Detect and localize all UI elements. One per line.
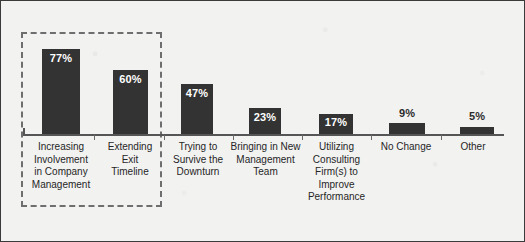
- bar-bringing-new-management[interactable]: 23%: [249, 108, 281, 134]
- bar-value-label: 17%: [319, 116, 353, 128]
- bar-extending-exit-timeline[interactable]: 60%: [113, 70, 148, 134]
- bar-other[interactable]: [460, 127, 494, 134]
- plot-area: 77% Increasing Involvement in Company Ma…: [1, 1, 524, 241]
- category-label-line: Management: [23, 179, 99, 192]
- bar-trying-to-survive[interactable]: 47%: [181, 84, 213, 134]
- category-label-line: Management: [229, 154, 302, 167]
- category-label-line: Firm(s) to: [302, 166, 371, 179]
- y-axis-stub: [23, 128, 25, 136]
- axis-tick: [233, 135, 234, 140]
- category-label-bringing-new-management: Bringing in New Management Team: [229, 141, 302, 179]
- category-label-extending-exit-timeline: Extending Exit Timeline: [95, 141, 165, 179]
- category-label-no-change: No Change: [371, 141, 441, 154]
- axis-tick: [164, 135, 165, 140]
- category-label-other: Other: [442, 141, 504, 154]
- category-label-line: Improve: [302, 179, 371, 192]
- bar-value-label: 47%: [181, 87, 213, 99]
- category-label-line: Utilizing: [302, 141, 371, 154]
- x-axis-line: [23, 134, 504, 136]
- category-label-line: Involvement: [23, 154, 99, 167]
- axis-tick: [302, 135, 303, 140]
- category-label-line: Consulting: [302, 154, 371, 167]
- category-label-line: Performance: [302, 191, 371, 204]
- category-label-line: Trying to: [164, 141, 232, 154]
- category-label-line: Exit: [95, 154, 165, 167]
- category-label-line: Survive the: [164, 154, 232, 167]
- bar-utilizing-consulting-firms[interactable]: 17%: [319, 114, 353, 134]
- chart-figure: 77% Increasing Involvement in Company Ma…: [0, 0, 525, 242]
- bar-no-change[interactable]: [389, 123, 425, 134]
- category-label-line: Timeline: [95, 166, 165, 179]
- bar-value-label: 60%: [113, 73, 148, 85]
- category-label-line: Other: [442, 141, 504, 154]
- category-label-line: Downturn: [164, 166, 232, 179]
- bar-value-label: 23%: [249, 111, 281, 123]
- category-label-utilizing-consulting-firms: Utilizing Consulting Firm(s) to Improve …: [302, 141, 371, 204]
- category-label-line: Increasing: [23, 141, 99, 154]
- category-label-line: Extending: [95, 141, 165, 154]
- category-label-line: No Change: [371, 141, 441, 154]
- bar-increasing-involvement[interactable]: 77%: [42, 49, 80, 134]
- category-label-line: Team: [229, 166, 302, 179]
- category-label-trying-to-survive: Trying to Survive the Downturn: [164, 141, 232, 179]
- category-label-line: in Company: [23, 166, 99, 179]
- bar-value-label: 77%: [42, 52, 80, 64]
- axis-tick: [441, 135, 442, 140]
- category-label-line: Bringing in New: [229, 141, 302, 154]
- axis-tick: [371, 135, 372, 140]
- category-label-increasing-involvement: Increasing Involvement in Company Manage…: [23, 141, 99, 191]
- bar-value-label: 9%: [389, 107, 425, 119]
- bar-value-label: 5%: [460, 110, 494, 122]
- axis-tick: [94, 135, 95, 140]
